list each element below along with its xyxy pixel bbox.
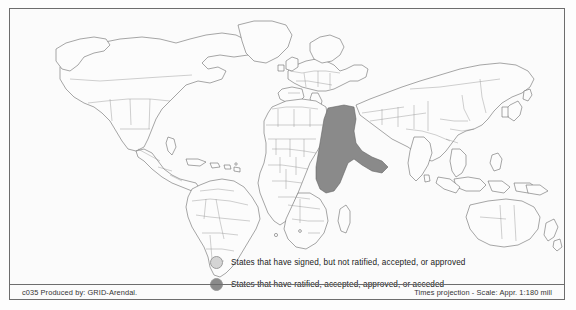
footer-projection-note: Times projection - Scale: Appr. 1:180 mi… [414, 288, 552, 297]
legend-label-signed: States that have signed, but not ratifie… [231, 258, 465, 267]
world-map[interactable] [10, 9, 564, 284]
map-frame: States that have signed, but not ratifie… [9, 8, 565, 300]
footer-credit: c035 Produced by: GRID-Arendal. [22, 288, 137, 297]
legend-item-signed[interactable]: States that have signed, but not ratifie… [210, 253, 530, 271]
map-page: States that have signed, but not ratifie… [0, 0, 576, 310]
asia [356, 63, 538, 193]
australia-oceania [466, 185, 562, 251]
signed-not-ratified-swatch [210, 256, 223, 269]
europe [278, 35, 368, 109]
world-map-svg [10, 9, 564, 284]
north-america [56, 21, 292, 191]
map-footer: c035 Produced by: GRID-Arendal. Times pr… [10, 285, 564, 299]
